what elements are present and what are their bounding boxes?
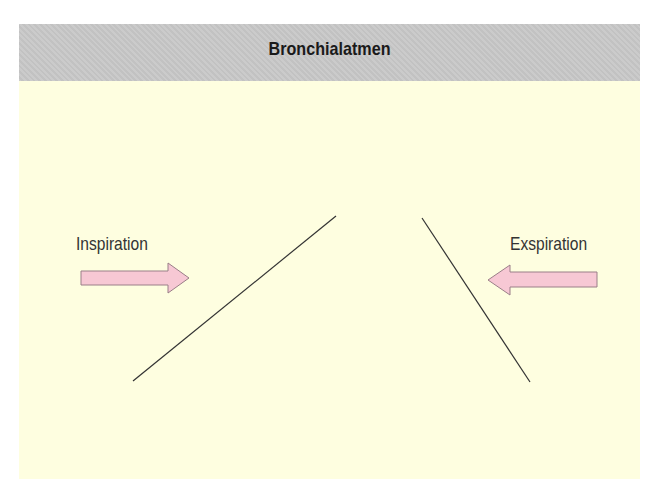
expiration-arrow-icon — [488, 265, 597, 295]
breathing-diagram — [0, 0, 660, 489]
inspiration-arrow-icon — [81, 263, 189, 293]
right-bronchial-wall-line — [422, 218, 530, 382]
left-bronchial-wall-line — [133, 216, 336, 381]
